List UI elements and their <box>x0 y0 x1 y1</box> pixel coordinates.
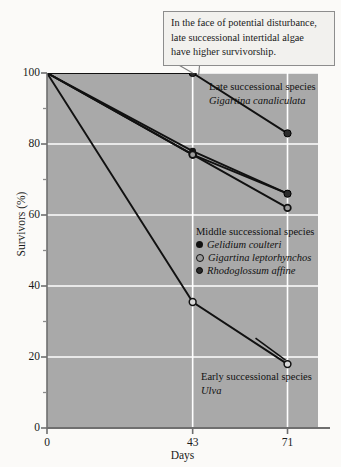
data-point-gigartina-canaliculata <box>284 130 291 137</box>
annotation-middle-successional: Middle successional species Gelidium cou… <box>196 226 314 277</box>
y-axis-title: Survivors (%) <box>15 179 27 269</box>
data-point-gigartina-leptorhynchos <box>189 151 196 158</box>
data-point-rhodoglossum-affine <box>284 190 291 197</box>
data-point-ulva <box>284 361 291 368</box>
y-tick-label: 80 <box>12 138 40 150</box>
callout-box: In the face of potential disturbance, la… <box>163 11 335 66</box>
annotation-late-species: Gigartina canaliculata <box>209 94 316 108</box>
series-line <box>47 73 288 364</box>
callout-line-3: have higher survivorship. <box>171 45 328 60</box>
x-tick-label: 71 <box>268 436 308 448</box>
ring-circle-icon <box>196 254 204 262</box>
callout-line-2: late successional intertidal algae <box>171 31 328 46</box>
figure-root: 020406080100 Survivors (%) 04371 Days In… <box>0 0 341 467</box>
x-axis-title: Days <box>47 449 318 461</box>
legend-label-gigartina-leptorhynchos: Gigartina leptorhynchos <box>208 252 311 263</box>
legend-label-rhodoglossum-affine: Rhodoglossum affine <box>207 265 295 276</box>
annotation-early-title: Early successional species <box>201 370 312 384</box>
annotation-late-title: Late successional species <box>209 80 316 94</box>
legend-item-gigartina-leptorhynchos: Gigartina leptorhynchos <box>196 251 314 264</box>
x-tick-label: 43 <box>173 436 213 448</box>
y-tick-label: 100 <box>12 67 40 79</box>
data-point-ulva <box>189 299 196 306</box>
y-tick-label: 20 <box>12 351 40 363</box>
annotation-late-successional: Late successional species Gigartina cana… <box>209 80 316 109</box>
annotation-middle-title: Middle successional species <box>196 226 314 237</box>
legend-item-gelidium-coulteri: Gelidium coulteri <box>196 238 314 251</box>
annotation-early-successional: Early successional species Ulva <box>201 370 312 399</box>
y-tick-label: 0 <box>12 422 40 434</box>
y-tick-label: 40 <box>12 280 40 292</box>
x-tick-label: 0 <box>27 436 67 448</box>
legend-item-rhodoglossum-affine: Rhodoglossum affine <box>196 264 314 277</box>
dark-circle-icon <box>196 267 203 274</box>
data-point-gigartina-canaliculata <box>189 73 196 77</box>
callout-line-1: In the face of potential disturbance, <box>171 16 328 31</box>
solid-circle-icon <box>196 241 203 248</box>
data-point-gigartina-leptorhynchos <box>284 205 291 212</box>
annotation-early-species: Ulva <box>201 384 312 398</box>
legend-label-gelidium-coulteri: Gelidium coulteri <box>207 239 281 250</box>
